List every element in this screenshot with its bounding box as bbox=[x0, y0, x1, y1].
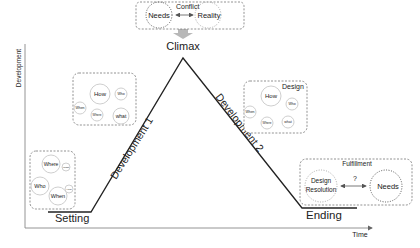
setting-box: Where What Who When How bbox=[30, 151, 75, 209]
fulfillment-needs: Needs bbox=[377, 182, 399, 191]
conflict-reality: Reality bbox=[198, 11, 221, 20]
design-how: How bbox=[265, 93, 278, 99]
dev1-how: How bbox=[94, 91, 107, 97]
x-axis-label: Time bbox=[352, 231, 367, 238]
design-when: When bbox=[245, 110, 254, 114]
design-box: Design How Who When Where what bbox=[244, 81, 307, 133]
setting-when: When bbox=[51, 193, 65, 199]
fulfillment-resolution: Resolution bbox=[306, 186, 337, 193]
conflict-box: Conflict Needs Reality bbox=[136, 2, 244, 29]
fulfillment-design: Design bbox=[311, 177, 332, 185]
stage-ending-label: Ending bbox=[306, 209, 342, 221]
stage-climax-label: Climax bbox=[166, 40, 200, 52]
fulfillment-title: Fulfillment bbox=[342, 160, 372, 167]
design-who: Who bbox=[288, 102, 295, 106]
conflict-needs: Needs bbox=[148, 11, 170, 20]
dev1-when: When bbox=[75, 106, 84, 110]
stage-setting-label: Setting bbox=[55, 212, 89, 224]
fulfillment-question: ? bbox=[353, 175, 357, 182]
dev1-where: Where bbox=[93, 113, 102, 117]
setting-where: Where bbox=[44, 161, 59, 167]
dev1-who: Who bbox=[117, 92, 124, 96]
setting-what: What bbox=[63, 166, 69, 169]
conflict-title: Conflict bbox=[176, 3, 199, 10]
design-title: Design bbox=[282, 83, 304, 91]
setting-who: Who bbox=[34, 183, 45, 189]
y-axis-label: Development bbox=[15, 49, 23, 87]
down-arrow-icon bbox=[173, 29, 193, 39]
development1-box: How Who When Where what bbox=[73, 73, 136, 125]
setting-how: How bbox=[66, 188, 71, 191]
fulfillment-box: Fulfillment Design Resolution ? Needs bbox=[300, 159, 412, 205]
design-where: Where bbox=[263, 121, 272, 125]
dev1-what: what bbox=[116, 113, 127, 119]
design-what: what bbox=[284, 120, 291, 124]
story-development-diagram: Development Time Setting Climax Ending D… bbox=[0, 0, 420, 248]
